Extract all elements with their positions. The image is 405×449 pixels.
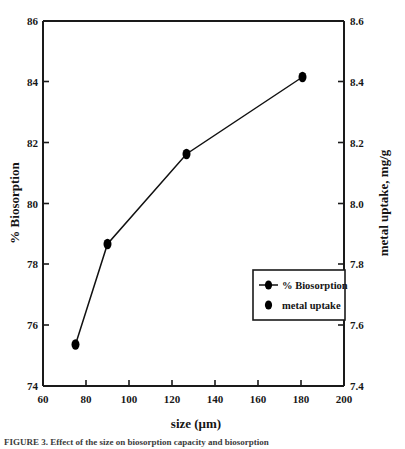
y2-tick-label-7-4: 7.4: [350, 380, 364, 392]
x-tick-label-160: 160: [250, 393, 267, 405]
y-tick-label-80: 80: [27, 198, 39, 210]
legend-label-metal-uptake: metal uptake: [282, 300, 341, 311]
y2-tick-label-8-4: 8.4: [350, 76, 364, 88]
y-tick-label-84: 84: [27, 76, 39, 88]
data-point-1: [72, 339, 80, 349]
y2-tick-label-7-6: 7.6: [350, 319, 364, 331]
y-axis-right-tick-labels: 7.4 7.6 7.8 8.0 8.2 8.4 8.6: [350, 15, 364, 392]
y2-tick-label-7-8: 7.8: [350, 258, 364, 270]
y2-tick-label-8-0: 8.0: [350, 198, 364, 210]
legend-circle-icon-2: [265, 300, 272, 309]
y2-tick-label-8-6: 8.6: [350, 15, 364, 27]
data-point-2: [104, 239, 112, 249]
legend[interactable]: % Biosorption metal uptake: [253, 270, 348, 320]
data-point-3: [183, 149, 191, 159]
legend-circle-icon: [265, 280, 272, 289]
x-tick-label-80: 80: [81, 393, 93, 405]
figure-caption: FIGURE 3. Effect of the size on biosorpt…: [4, 436, 404, 448]
y-tick-label-74: 74: [27, 380, 39, 392]
x-tick-label-140: 140: [207, 393, 224, 405]
x-axis-title: size (μm): [171, 416, 221, 431]
x-axis-tick-labels: 60 80 100 120 140 160 180 200: [38, 393, 353, 405]
chart-canvas: 74 76 78 80 82 84 86 7.4 7.6 7.8 8.0 8.2…: [0, 0, 405, 449]
y2-tick-label-8-2: 8.2: [350, 137, 364, 149]
y-tick-label-82: 82: [27, 137, 39, 149]
y-tick-label-76: 76: [27, 319, 39, 331]
x-tick-label-120: 120: [164, 393, 181, 405]
figure-container: 74 76 78 80 82 84 86 7.4 7.6 7.8 8.0 8.2…: [0, 0, 405, 449]
y-tick-label-86: 86: [27, 15, 39, 27]
legend-box: [253, 270, 345, 320]
x-tick-label-100: 100: [121, 393, 138, 405]
x-tick-label-60: 60: [38, 393, 50, 405]
y-axis-left-title: % Biosorption: [7, 162, 22, 244]
x-tick-label-200: 200: [336, 393, 353, 405]
y-tick-label-78: 78: [27, 258, 39, 270]
legend-label-biosorption: % Biosorption: [282, 280, 348, 291]
y-axis-left-tick-labels: 74 76 78 80 82 84 86: [27, 15, 39, 392]
data-point-4: [299, 72, 307, 82]
x-tick-label-180: 180: [293, 393, 310, 405]
y-axis-right-title: metal uptake, mg/g: [376, 149, 391, 256]
